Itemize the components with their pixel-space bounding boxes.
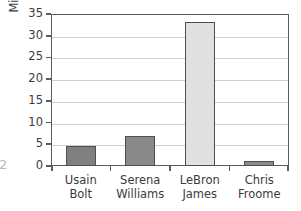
x-axis-tick-label-line: Bolt (51, 187, 111, 201)
x-axis-tick-label-line: Froome (230, 187, 290, 201)
x-axis-tick-label: UsainBolt (51, 173, 111, 201)
x-axis-tick-label-line: James (170, 187, 230, 201)
page-edge-artifact-glyph: 2 (0, 158, 7, 171)
bars-layer (51, 14, 289, 166)
y-axis-tick-label: 5 (17, 139, 43, 151)
y-axis-tick-label: 30 (17, 30, 43, 42)
x-axis-tick-label-line: Chris (230, 173, 290, 187)
y-axis-tick-label: 35 (17, 8, 43, 20)
y-axis-tick-label: 15 (17, 95, 43, 107)
x-axis-tick-label: LeBronJames (170, 173, 230, 201)
bar-chart-figure: 2 Millions of followers 05101520253035 U… (0, 0, 301, 211)
x-axis-tick-label: ChrisFroome (230, 173, 290, 201)
bar[interactable] (185, 22, 215, 166)
x-axis-tick-label: SerenaWilliams (111, 173, 171, 201)
y-axis-tick-label: 0 (17, 160, 43, 172)
x-axis-tick-mark (110, 166, 112, 171)
x-axis-tick-mark (169, 166, 171, 171)
x-axis-tick-mark (229, 166, 231, 171)
x-axis-tick-label-line: LeBron (170, 173, 230, 187)
bar[interactable] (66, 146, 96, 166)
x-axis-tick-mark (287, 166, 289, 171)
y-axis-tick-label: 25 (17, 52, 43, 64)
x-axis-tick-marks (51, 166, 289, 172)
x-axis-tick-label-line: Serena (111, 173, 171, 187)
bar[interactable] (125, 136, 155, 166)
x-axis-tick-label-line: Usain (51, 173, 111, 187)
y-axis-tick-label: 10 (17, 117, 43, 129)
y-axis-tick-label: 20 (17, 73, 43, 85)
x-axis-tick-labels: UsainBoltSerenaWilliamsLeBronJamesChrisF… (51, 173, 289, 211)
x-axis-tick-label-line: Williams (111, 187, 171, 201)
x-axis-tick-mark (51, 166, 53, 171)
